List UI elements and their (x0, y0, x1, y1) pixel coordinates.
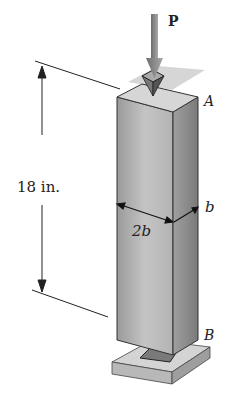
point-b-label: B (203, 327, 214, 343)
point-a-label: A (202, 93, 214, 109)
width-label: 2b (131, 222, 151, 240)
height-label: 18 in. (17, 178, 60, 196)
column-diagram: P A B 18 in. 2b b (0, 0, 231, 399)
depth-label: b (205, 198, 215, 216)
load-label: P (168, 13, 179, 29)
column (117, 84, 198, 355)
